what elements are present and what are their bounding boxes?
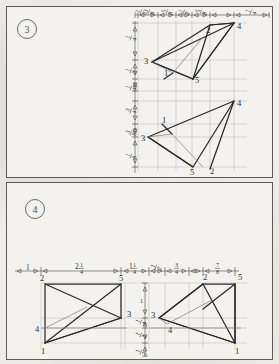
vertex-label: 3 <box>151 310 155 320</box>
dim-label: 4 <box>140 320 148 325</box>
vertex-label: 2 <box>210 166 214 176</box>
vertex-label: 2 <box>203 272 207 282</box>
vertex-label: 5 <box>119 273 123 283</box>
dim-label: 1 <box>133 261 136 268</box>
left-figure-construction <box>41 307 127 328</box>
left-dimension-line <box>132 21 138 173</box>
panel-3-drawing: 1 2 3 8 5 8 1 2 <box>7 7 274 177</box>
dim-label: 1 <box>140 297 143 304</box>
dim-label: 1 <box>80 261 83 268</box>
left-dimension-labels: 1 4 1 2 1 4 3 4 <box>123 33 138 160</box>
vertex-label: 3 <box>127 309 131 319</box>
dim-label: 8 <box>216 268 219 275</box>
right-figure-construction <box>149 300 241 328</box>
vertex-label: 4 <box>168 325 173 335</box>
lower-figure-construction <box>148 134 203 167</box>
dim-label: 4 <box>133 268 136 275</box>
left-rectangle-figure <box>45 284 121 343</box>
dim-label: 2 <box>155 265 163 270</box>
dim-label: 4 <box>130 36 138 41</box>
problem-panel-4: 4 <box>6 182 273 360</box>
panel-4-drawing: 1 2 1 4 1 1 4 1 2 <box>7 183 274 359</box>
upper-figure-construction <box>152 37 203 73</box>
dim-label: 1 <box>26 263 30 272</box>
vertex-label: 2 <box>40 273 44 283</box>
dim-label: 8 <box>200 10 208 15</box>
upper-figure-vertex-labels: 2 4 3 1 5 <box>144 21 242 85</box>
dim-label: 8 <box>166 10 174 15</box>
dim-label: 4 <box>175 268 178 275</box>
dim-label: 8 <box>130 154 138 159</box>
vertex-label: 2 <box>206 25 210 35</box>
dim-label: 4 <box>250 10 258 15</box>
dim-label: 8 <box>148 10 156 15</box>
vertex-label: 1 <box>162 115 166 125</box>
vertex-label: 3 <box>144 56 148 66</box>
construction-grid-panel-4 <box>41 283 247 349</box>
lower-figure-vertex-labels: 4 1 3 5 2 <box>141 98 242 177</box>
vertex-label: 4 <box>237 98 242 108</box>
vertex-label: 4 <box>35 324 40 334</box>
vertex-label: 5 <box>190 167 194 177</box>
dim-label: 2 <box>130 69 138 74</box>
panel-4-vertical-dimension-line <box>142 283 148 357</box>
drawing-sheet: 3 <box>0 0 279 364</box>
vertex-label: 4 <box>237 21 242 31</box>
problem-panel-3: 3 <box>6 6 273 178</box>
dim-label: 2 <box>183 10 191 15</box>
dim-label: 7 <box>216 261 219 268</box>
vertex-label: 5 <box>238 272 242 282</box>
lower-triangle-group <box>148 101 234 169</box>
vertex-label: 1 <box>41 346 45 356</box>
vertex-label: 1 <box>164 68 168 78</box>
vertex-label: 3 <box>141 133 145 143</box>
vertex-label: 5 <box>195 75 199 85</box>
dim-label: 4 <box>130 109 138 114</box>
vertex-label: 1 <box>235 346 239 356</box>
dim-label: 2 <box>140 333 148 338</box>
dim-label: 2 <box>75 262 79 271</box>
dim-label: 4 <box>80 268 83 275</box>
dim-label: 3 <box>175 261 178 268</box>
